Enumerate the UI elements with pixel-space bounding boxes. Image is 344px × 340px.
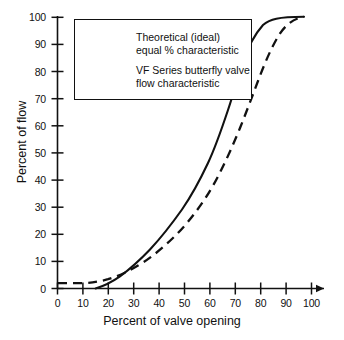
x-tick-label-10: 10 <box>77 298 88 309</box>
legend-label-theoretical-line2: equal % characteristic <box>136 44 239 57</box>
legend-entry-theoretical: Theoretical (ideal) equal % characterist… <box>83 31 239 56</box>
dashed-line-sample-slot <box>83 32 129 44</box>
solid-line-sample-slot <box>83 65 129 77</box>
legend-label-vf-series-line1: VF Series butterfly valve <box>136 64 250 77</box>
x-tick-label-0: 0 <box>55 298 61 309</box>
flow-characteristic-chart: Theoretical (ideal) equal % characterist… <box>0 0 344 340</box>
y-tick-label-10: 10 <box>14 256 46 267</box>
legend-label-theoretical: Theoretical (ideal) equal % characterist… <box>136 31 239 56</box>
x-tick-label-60: 60 <box>204 298 215 309</box>
x-tick-label-30: 30 <box>128 298 139 309</box>
x-tick-label-100: 100 <box>303 298 320 309</box>
legend: Theoretical (ideal) equal % characterist… <box>74 19 252 100</box>
x-tick-label-70: 70 <box>230 298 241 309</box>
x-tick-label-40: 40 <box>153 298 164 309</box>
y-tick-label-0: 0 <box>14 283 46 294</box>
y-tick-label-100: 100 <box>14 12 46 23</box>
legend-label-vf-series: VF Series butterfly valve flow character… <box>136 64 250 89</box>
x-tick-label-90: 90 <box>280 298 291 309</box>
x-axis-title: Percent of valve opening <box>0 314 344 328</box>
x-tick-label-80: 80 <box>255 298 266 309</box>
x-axis-arrowhead <box>316 285 324 292</box>
legend-label-vf-series-line2: flow characteristic <box>136 77 250 90</box>
x-tick-label-20: 20 <box>103 298 114 309</box>
legend-entry-vf-series: VF Series butterfly valve flow character… <box>83 64 250 89</box>
x-tick-label-50: 50 <box>179 298 190 309</box>
y-tick-label-20: 20 <box>14 229 46 240</box>
y-tick-label-90: 90 <box>14 39 46 50</box>
y-axis-title: Percent of flow <box>15 72 29 212</box>
legend-label-theoretical-line1: Theoretical (ideal) <box>136 31 239 44</box>
